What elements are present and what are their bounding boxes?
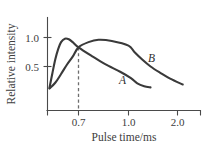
curve-label-a: A — [118, 74, 127, 86]
y-axis-title: Relative intensity — [5, 23, 18, 104]
x-tick-label-0.7: 0.7 — [72, 116, 86, 128]
x-axis-title: Pulse time/ms — [92, 131, 157, 143]
chart-figure: 1.0 0.5 0.7 1.0 2.0 Pulse time/ms Relati… — [0, 0, 213, 148]
x-tick-label-1.0: 1.0 — [122, 116, 136, 128]
relative-intensity-vs-pulse-time-chart: 1.0 0.5 0.7 1.0 2.0 Pulse time/ms Relati… — [0, 0, 213, 148]
curve-label-b: B — [148, 52, 155, 64]
y-tick-label-0.5: 0.5 — [25, 61, 39, 73]
x-tick-label-2.0: 2.0 — [171, 116, 185, 128]
y-tick-label-1.0: 1.0 — [25, 32, 39, 44]
